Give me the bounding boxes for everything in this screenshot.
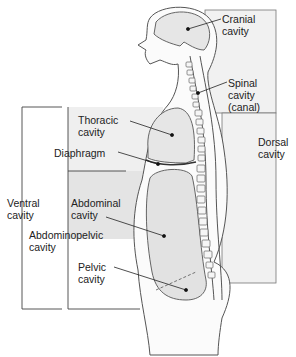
abdominopelvic-label-line1: Abdominopelvic: [29, 229, 103, 241]
thoracic-cavity-label: Thoracic cavity: [78, 114, 118, 138]
abdominopelvic-label-line2: cavity: [29, 241, 103, 253]
cranial-cavity-label: Cranial cavity: [222, 13, 255, 37]
dorsal-label-line2: cavity: [258, 148, 288, 160]
spinal-label-line3: (canal): [228, 101, 260, 113]
body-cavity-diagram: [0, 0, 296, 357]
ventral-label-line2: cavity: [7, 209, 40, 221]
thoracic-label-line2: cavity: [78, 126, 118, 138]
diaphragm-label: Diaphragm: [54, 147, 105, 159]
abdominal-label-line2: cavity: [71, 209, 121, 221]
dorsal-label-line1: Dorsal: [258, 136, 288, 148]
ventral-cavity-label: Ventral cavity: [7, 197, 40, 221]
abdominal-label-line1: Abdominal: [71, 197, 121, 209]
thoracic-label-line1: Thoracic: [78, 114, 118, 126]
cranial-label-line2: cavity: [222, 25, 255, 37]
spinal-label-line1: Spinal: [228, 77, 260, 89]
cranial-label-line1: Cranial: [222, 13, 255, 25]
pelvic-cavity-label: Pelvic cavity: [78, 261, 106, 285]
dorsal-cavity-label: Dorsal cavity: [258, 136, 288, 160]
pelvic-label-line2: cavity: [78, 273, 106, 285]
spinal-label-line2: cavity: [228, 89, 260, 101]
pelvic-label-line1: Pelvic: [78, 261, 106, 273]
abdominal-cavity-label: Abdominal cavity: [71, 197, 121, 221]
spinal-cavity-label: Spinal cavity (canal): [228, 77, 260, 113]
abdominopelvic-cavity-label: Abdominopelvic cavity: [29, 229, 103, 253]
ventral-label-line1: Ventral: [7, 197, 40, 209]
